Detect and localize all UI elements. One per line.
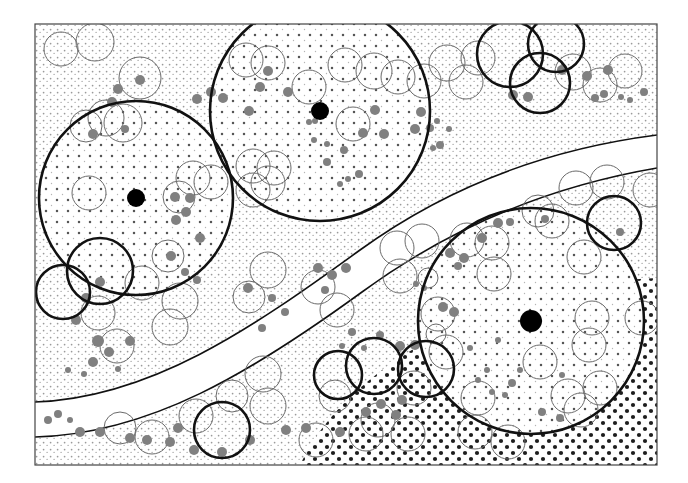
grey-blob-106 bbox=[335, 427, 345, 437]
grey-blob-12 bbox=[340, 146, 348, 154]
grey-blob-22 bbox=[345, 176, 351, 182]
grey-blob-34 bbox=[582, 71, 592, 81]
grey-blob-53 bbox=[92, 335, 104, 347]
grey-blob-70 bbox=[268, 294, 276, 302]
grey-blob-21 bbox=[355, 170, 363, 178]
grey-blob-73 bbox=[313, 263, 323, 273]
grey-blob-77 bbox=[348, 328, 356, 336]
grey-blob-36 bbox=[591, 94, 599, 102]
grey-blob-27 bbox=[434, 118, 440, 124]
grey-blob-5 bbox=[192, 94, 202, 104]
grey-blob-45 bbox=[171, 215, 181, 225]
grey-blob-54 bbox=[104, 347, 114, 357]
grey-blob-104 bbox=[467, 345, 473, 351]
grey-blob-3 bbox=[121, 125, 129, 133]
grey-blob-110 bbox=[217, 447, 227, 457]
grey-blob-105 bbox=[495, 337, 501, 343]
grey-blob-89 bbox=[459, 253, 469, 263]
grey-blob-40 bbox=[640, 88, 648, 96]
grey-blob-113 bbox=[556, 414, 564, 422]
grey-blob-7 bbox=[218, 93, 228, 103]
grey-blob-60 bbox=[44, 416, 52, 424]
grey-blob-4 bbox=[88, 129, 98, 139]
grey-blob-56 bbox=[88, 357, 98, 367]
grey-blob-87 bbox=[438, 302, 448, 312]
grey-blob-76 bbox=[321, 286, 329, 294]
grey-blob-55 bbox=[125, 336, 135, 346]
grey-blob-38 bbox=[618, 94, 624, 100]
grey-blob-15 bbox=[358, 128, 368, 138]
grey-blob-61 bbox=[54, 410, 62, 418]
grey-blob-16 bbox=[306, 119, 312, 125]
grey-blob-83 bbox=[361, 407, 371, 417]
centroid-marker-southeast bbox=[520, 310, 542, 332]
grey-blob-92 bbox=[454, 262, 462, 270]
grey-blob-32 bbox=[523, 92, 533, 102]
grey-blob-37 bbox=[600, 90, 608, 98]
grey-blob-101 bbox=[475, 377, 481, 383]
grey-blob-57 bbox=[81, 371, 87, 377]
grey-blob-24 bbox=[416, 107, 426, 117]
grey-blob-28 bbox=[436, 141, 444, 149]
grey-blob-100 bbox=[484, 367, 490, 373]
grey-blob-18 bbox=[311, 137, 317, 143]
grey-blob-29 bbox=[430, 145, 436, 151]
grey-blob-79 bbox=[361, 345, 367, 351]
grey-blob-82 bbox=[376, 399, 386, 409]
grey-blob-107 bbox=[301, 423, 311, 433]
grey-blob-103 bbox=[502, 392, 508, 398]
grey-blob-43 bbox=[185, 193, 195, 203]
grey-blob-111 bbox=[189, 445, 199, 455]
grey-blob-58 bbox=[65, 367, 71, 373]
grey-blob-39 bbox=[627, 97, 633, 103]
grey-blob-59 bbox=[115, 366, 121, 372]
grey-blob-84 bbox=[391, 410, 401, 420]
grey-blob-91 bbox=[477, 233, 487, 243]
grey-blob-90 bbox=[445, 248, 455, 258]
grey-blob-14 bbox=[379, 129, 389, 139]
grey-blob-98 bbox=[517, 367, 523, 373]
grey-blob-1 bbox=[113, 84, 123, 94]
grey-blob-68 bbox=[173, 423, 183, 433]
centroid-marker-west bbox=[127, 189, 145, 207]
grey-blob-62 bbox=[67, 417, 73, 423]
grey-blob-75 bbox=[341, 263, 351, 273]
grey-blob-88 bbox=[449, 307, 459, 317]
grey-blob-71 bbox=[281, 308, 289, 316]
grey-blob-96 bbox=[616, 228, 624, 236]
grey-blob-20 bbox=[323, 158, 331, 166]
grey-blob-48 bbox=[181, 268, 189, 276]
grey-blob-44 bbox=[181, 207, 191, 217]
grey-blob-10 bbox=[283, 87, 293, 97]
grey-blob-69 bbox=[243, 283, 253, 293]
grey-blob-30 bbox=[446, 126, 452, 132]
grey-blob-72 bbox=[258, 324, 266, 332]
grey-blob-19 bbox=[324, 141, 330, 147]
grey-blob-0 bbox=[135, 75, 145, 85]
grey-blob-42 bbox=[170, 192, 180, 202]
grey-blob-8 bbox=[244, 106, 254, 116]
grey-blob-78 bbox=[339, 343, 345, 349]
grey-blob-94 bbox=[506, 218, 514, 226]
grey-blob-74 bbox=[327, 270, 337, 280]
grey-blob-115 bbox=[413, 281, 419, 287]
grey-blob-25 bbox=[410, 124, 420, 134]
grey-blob-99 bbox=[508, 379, 516, 387]
grey-blob-13 bbox=[370, 105, 380, 115]
grey-blob-93 bbox=[493, 218, 503, 228]
grey-blob-47 bbox=[166, 251, 176, 261]
diagram-canvas bbox=[0, 0, 688, 483]
grey-blob-23 bbox=[337, 181, 343, 187]
grey-blob-112 bbox=[538, 408, 546, 416]
grey-blob-66 bbox=[142, 435, 152, 445]
grey-blob-67 bbox=[165, 437, 175, 447]
grey-blob-35 bbox=[603, 65, 613, 75]
grey-blob-11 bbox=[263, 66, 273, 76]
grey-blob-102 bbox=[489, 389, 495, 395]
grey-blob-46 bbox=[195, 233, 205, 243]
grey-blob-108 bbox=[281, 425, 291, 435]
grey-blob-65 bbox=[125, 433, 135, 443]
figure-container bbox=[0, 0, 688, 483]
grey-blob-95 bbox=[541, 215, 549, 223]
grey-blob-9 bbox=[255, 82, 265, 92]
